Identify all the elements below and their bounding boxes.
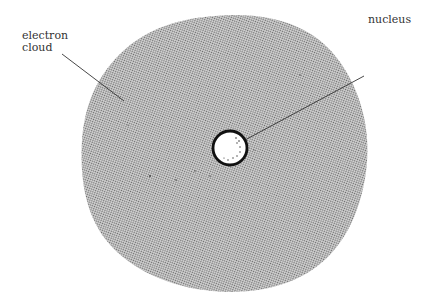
nucleus [213,131,247,165]
nucleus-label: nucleus [368,14,411,26]
atom-diagram: electron cloud nucleus [0,0,429,302]
electron-cloud-label: electron cloud [22,30,68,54]
electron-cloud-label-line-2: cloud [22,42,68,54]
